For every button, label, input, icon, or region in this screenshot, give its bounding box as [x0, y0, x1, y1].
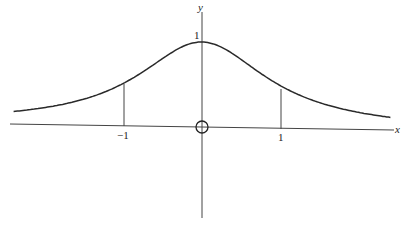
y-tick-label-1: 1: [194, 30, 200, 41]
function-plot: [0, 0, 406, 230]
x-tick-label-1: 1: [278, 132, 284, 143]
x-tick-label-neg1: −1: [117, 130, 129, 141]
x-axis-label: x: [395, 124, 400, 135]
y-axis-label: y: [198, 2, 203, 13]
